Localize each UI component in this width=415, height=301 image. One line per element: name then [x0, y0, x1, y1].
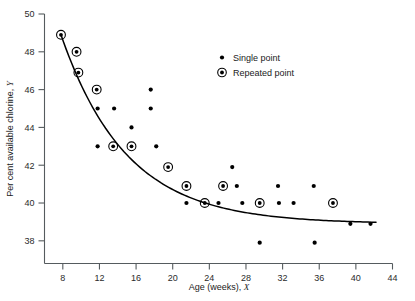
data-point-single: [313, 241, 317, 245]
y-tick-label: 48: [24, 47, 34, 57]
y-tick-label: 42: [24, 161, 34, 171]
y-tick-label: 50: [24, 9, 34, 19]
plot-axes: [45, 14, 393, 264]
chart-container: 38404244464850 8121620242832364044 Singl…: [0, 0, 415, 301]
data-point-single: [240, 201, 244, 205]
x-tick-label: 24: [204, 273, 214, 283]
data-point-repeated-dot: [95, 88, 99, 92]
y-tick-label: 44: [24, 123, 34, 133]
data-point-single: [149, 88, 153, 92]
x-tick-label: 20: [168, 273, 178, 283]
axis-titles: Age (weeks), X Per cent available chlori…: [5, 80, 250, 292]
scatter-chart: 38404244464850 8121620242832364044 Singl…: [0, 0, 415, 301]
x-axis-ticks: 8121620242832364044: [60, 264, 397, 283]
data-point-repeated-dot: [130, 144, 134, 148]
legend-marker-single-point: [220, 55, 224, 59]
legend: Single point Repeated point: [218, 53, 295, 78]
y-axis-ticks: 38404244464850: [24, 9, 44, 246]
data-point-single: [149, 106, 153, 110]
data-point-single: [112, 106, 116, 110]
data-point-repeated-dot: [185, 184, 189, 188]
x-tick-label: 40: [351, 273, 361, 283]
y-axis-title: Per cent available chlorine, Y: [5, 80, 15, 197]
data-point-single: [129, 125, 133, 129]
data-point-single: [154, 144, 158, 148]
data-point-single: [216, 201, 220, 205]
fit-curve-group: [61, 35, 376, 222]
data-point-repeated-dot: [59, 33, 63, 37]
data-point-repeated-dot: [258, 201, 262, 205]
data-point-repeated-dot: [221, 184, 225, 188]
data-point-single: [96, 144, 100, 148]
x-tick-label: 12: [94, 273, 104, 283]
legend-label-single-point: Single point: [233, 53, 281, 63]
data-point-repeated-dot: [166, 165, 170, 169]
data-point-single: [258, 241, 262, 245]
data-point-single: [312, 184, 316, 188]
data-point-single: [276, 184, 280, 188]
data-point-repeated-dot: [111, 144, 115, 148]
fitted-curve: [61, 35, 376, 222]
y-tick-label: 38: [24, 236, 34, 246]
legend-label-repeated-point: Repeated point: [233, 68, 295, 78]
data-point-single: [96, 106, 100, 110]
legend-marker-repeated-point-dot: [220, 71, 224, 75]
data-point-single: [348, 222, 352, 226]
x-tick-label: 32: [278, 273, 288, 283]
data-point-repeated-dot: [203, 201, 207, 205]
y-tick-label: 40: [24, 198, 34, 208]
x-axis-title: Age (weeks), X: [189, 282, 250, 292]
data-point-repeated-dot: [75, 50, 79, 54]
x-tick-label: 44: [387, 273, 397, 283]
data-point-single: [235, 184, 239, 188]
data-point-repeated-dot: [331, 201, 335, 205]
data-point-single: [277, 201, 281, 205]
data-point-repeated-dot: [76, 71, 80, 75]
data-point-single: [368, 222, 372, 226]
data-point-single: [230, 165, 234, 169]
x-tick-label: 36: [314, 273, 324, 283]
x-tick-label: 8: [60, 273, 65, 283]
y-tick-label: 46: [24, 85, 34, 95]
x-tick-label: 28: [241, 273, 251, 283]
data-point-single: [291, 201, 295, 205]
x-tick-label: 16: [131, 273, 141, 283]
data-point-single: [184, 201, 188, 205]
